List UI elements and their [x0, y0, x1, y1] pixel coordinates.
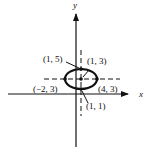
point-bottom	[79, 87, 83, 91]
point-left	[63, 77, 67, 81]
leader-center	[83, 70, 89, 77]
label-right-point: (4, 3)	[98, 84, 118, 94]
label-top-point: (1, 5)	[43, 54, 63, 64]
point-top	[79, 67, 83, 71]
y-axis-label: y	[72, 0, 77, 10]
label-left-point: (−2, 3)	[33, 84, 58, 94]
label-center-point: (1, 3)	[87, 56, 107, 66]
x-axis-label: x	[138, 89, 143, 99]
point-center	[79, 77, 83, 81]
leader-top	[66, 62, 79, 68]
ellipse-diagram: x y (1, 5) (1, 3) (−2, 3) (4, 3) (1, 1)	[0, 0, 149, 150]
point-right	[95, 77, 99, 81]
label-bottom-point: (1, 1)	[86, 101, 106, 111]
